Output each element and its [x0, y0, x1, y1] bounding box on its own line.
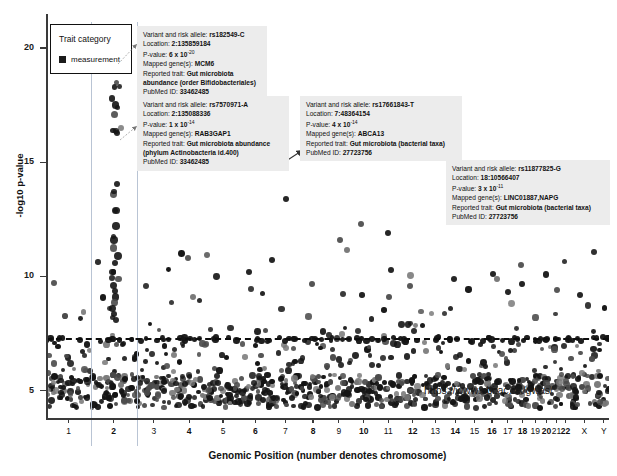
x-axis-tick-label-8: 8 [311, 426, 316, 436]
scatter-point [187, 374, 192, 379]
x-axis-tick-label-19: 19 [530, 426, 539, 436]
scatter-point [328, 373, 332, 377]
y-axis-title: -log10 p-value [14, 131, 25, 241]
scatter-point [254, 328, 260, 334]
x-axis-tick-label-7: 7 [283, 426, 288, 436]
scatter-point [332, 373, 337, 378]
scatter-point [386, 386, 390, 390]
scatter-point [407, 283, 413, 289]
callout-1-pubmed-value: 33462485 [180, 88, 209, 95]
x-axis-tick [113, 418, 114, 423]
callout-2-location-label: Location: [143, 110, 170, 117]
callout-rs7570971: Variant and risk allele: rs7570971-A Loc… [137, 96, 289, 171]
callout-3-trait-label: Reported trait: [306, 140, 348, 147]
scatter-point [308, 394, 314, 400]
scatter-point [465, 286, 471, 292]
scatter-point [561, 343, 567, 349]
callout-4-pvalue-value: 3 x 10 [478, 185, 496, 192]
callout-4-location-label: Location: [452, 174, 479, 181]
scatter-point [596, 390, 601, 395]
x-axis-tick-label-20: 20 [542, 426, 551, 436]
gwas-catalog-url: https://www.ebi.ac.uk/gwas/ [424, 384, 553, 396]
scatter-point [532, 314, 538, 320]
scatter-point [399, 379, 405, 385]
scatter-point [337, 237, 343, 243]
scatter-point [291, 346, 296, 351]
scatter-point [420, 323, 425, 328]
scatter-point [248, 286, 254, 292]
x-axis-tick-label-10: 10 [359, 426, 368, 436]
scatter-point [148, 322, 152, 326]
scatter-point [340, 373, 346, 379]
scatter-point [51, 391, 55, 395]
legend-title: Trait category [59, 34, 111, 44]
scatter-point [568, 356, 573, 361]
chromosome-2-highlight-band [91, 22, 137, 446]
legend-item-label-measurement: measurement [71, 55, 120, 64]
scatter-point [367, 345, 371, 349]
scatter-point [206, 387, 212, 393]
scatter-point [47, 404, 52, 409]
scatter-point [278, 306, 284, 312]
scatter-point [340, 380, 346, 386]
scatter-point [291, 361, 296, 366]
scatter-point [502, 398, 508, 404]
scatter-point [207, 395, 212, 400]
scatter-point [196, 369, 200, 373]
scatter-point [562, 259, 567, 264]
callout-2-pvalue-exponent: -14 [187, 119, 194, 125]
scatter-point [589, 356, 594, 361]
x-axis-tick-label-6: 6 [253, 426, 258, 436]
callout-1-location-label: Location: [143, 40, 170, 47]
scatter-point [319, 384, 323, 388]
scatter-point [518, 262, 524, 268]
scatter-point [82, 353, 88, 359]
scatter-point [72, 367, 76, 371]
scatter-point [284, 403, 289, 408]
scatter-point [274, 404, 279, 409]
scatter-point [291, 375, 298, 382]
x-axis-tick [338, 418, 339, 423]
callout-4-gene-value: LINC01887,NAPG [504, 194, 559, 201]
callout-rs17661843: Variant and risk allele: rs17661843-T Lo… [300, 96, 462, 161]
scatter-point [441, 341, 445, 345]
scatter-point [359, 292, 365, 298]
scatter-point [423, 348, 429, 354]
scatter-point [223, 404, 228, 409]
scatter-point [258, 353, 264, 359]
scatter-point [283, 345, 289, 351]
scatter-point [553, 404, 558, 409]
scatter-point [514, 326, 519, 331]
scatter-point [369, 316, 374, 321]
scatter-point [462, 367, 468, 373]
x-axis-tick-label-12: 12 [408, 426, 417, 436]
scatter-point [175, 402, 181, 408]
scatter-point [556, 379, 563, 386]
scatter-point [174, 387, 180, 393]
y-axis-tick [40, 162, 46, 164]
scatter-point [51, 373, 58, 380]
scatter-point [594, 381, 601, 388]
scatter-point [279, 368, 284, 373]
scatter-point [591, 249, 597, 255]
scatter-point [375, 374, 382, 381]
x-axis-tick-label-11: 11 [384, 426, 393, 436]
scatter-point [79, 399, 84, 404]
scatter-point [162, 343, 167, 348]
scatter-point [242, 354, 248, 360]
scatter-point [239, 376, 244, 381]
scatter-point [358, 221, 364, 227]
scatter-point [61, 368, 65, 372]
scatter-point [177, 360, 182, 365]
x-axis-tick [603, 418, 604, 423]
scatter-point [408, 321, 413, 326]
callout-2-location-value: 2:135088336 [172, 110, 211, 117]
scatter-point [453, 354, 459, 360]
scatter-point [553, 312, 558, 317]
x-axis-tick [312, 418, 313, 423]
scatter-point [516, 342, 521, 347]
scatter-point [411, 348, 417, 354]
scatter-point [526, 403, 531, 408]
scatter-point [585, 374, 589, 378]
scatter-point [283, 196, 289, 202]
